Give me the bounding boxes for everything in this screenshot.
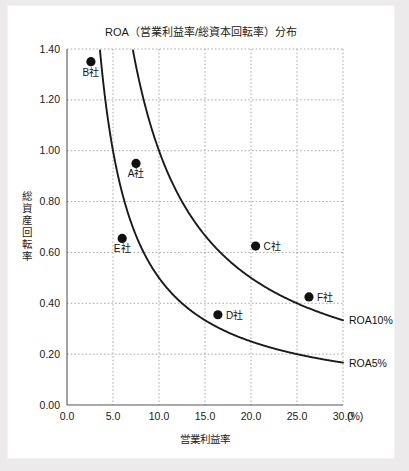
- roa-curve-10: [133, 51, 343, 321]
- curve-label-10: ROA10%: [349, 314, 393, 326]
- x-tick-label: 25.0: [287, 410, 308, 422]
- data-point-B社: [86, 57, 95, 66]
- data-point-label-F社: F社: [317, 291, 333, 303]
- x-tick-label: 15.0: [195, 410, 216, 422]
- y-tick-label: 0.80: [40, 195, 61, 207]
- curve-label-5: ROA5%: [349, 357, 387, 369]
- chart-title: ROA（営業利益率/総資本回転率）分布: [105, 25, 297, 38]
- y-axis-title: 総資産回転率: [20, 190, 32, 263]
- data-point-A社: [131, 159, 140, 168]
- data-point-F社: [304, 292, 313, 301]
- data-point-label-B社: B社: [83, 66, 100, 78]
- x-tick-label: 20.0: [241, 410, 262, 422]
- data-point-D社: [213, 310, 222, 319]
- x-tick-label: 10.0: [149, 410, 170, 422]
- y-tick-label: 0.40: [40, 297, 61, 309]
- x-tick-label: 0.0: [60, 410, 75, 422]
- roa-curve-labels: ROA10%ROA5%: [349, 314, 393, 368]
- y-tick-label: 0.00: [40, 399, 61, 411]
- y-tick-label: 1.40: [40, 43, 61, 55]
- y-axis-tick-labels: 0.000.200.400.600.801.001.201.40: [40, 43, 61, 411]
- y-tick-label: 0.20: [40, 348, 61, 360]
- roa-scatter-chart: ROA（営業利益率/総資本回転率）分布 0.000.200.400.600.80…: [8, 6, 394, 458]
- x-axis-title: 営業利益率: [180, 433, 230, 445]
- grid-vertical-lines: [113, 49, 343, 405]
- y-tick-label: 1.20: [40, 93, 61, 105]
- y-tick-label: 0.60: [40, 246, 61, 258]
- data-point-C社: [251, 241, 260, 250]
- y-tick-label: 1.00: [40, 144, 61, 156]
- x-axis-tick-labels: 0.05.010.015.020.025.030.0: [60, 410, 354, 422]
- x-axis-unit-label: (%): [347, 410, 363, 422]
- x-tick-label: 5.0: [106, 410, 121, 422]
- data-point-label-D社: D社: [226, 309, 243, 321]
- data-point-label-C社: C社: [264, 240, 281, 252]
- data-point-label-A社: A社: [128, 167, 145, 179]
- chart-screenshot: ROA（営業利益率/総資本回転率）分布 0.000.200.400.600.80…: [0, 0, 409, 471]
- data-point-E社: [118, 234, 127, 243]
- chart-card: ROA（営業利益率/総資本回転率）分布 0.000.200.400.600.80…: [8, 6, 394, 458]
- data-point-label-E社: E社: [114, 242, 131, 254]
